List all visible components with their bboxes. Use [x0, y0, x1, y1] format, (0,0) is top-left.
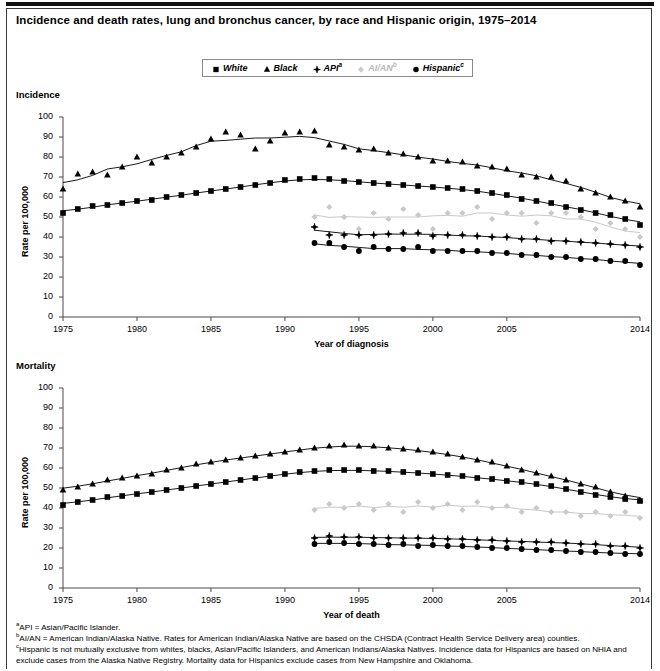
legend-item-label: Hispanicc — [423, 63, 464, 73]
plot-area — [0, 376, 660, 626]
panel-label-mortality: Mortality — [16, 360, 56, 371]
legend-item-black: Black — [262, 63, 298, 73]
legend-item-label: AI/ANb — [368, 63, 396, 73]
legend-item-hispanic: Hispanicc — [411, 63, 464, 73]
panel-label-incidence: Incidence — [16, 89, 60, 100]
square-marker-icon — [211, 64, 220, 73]
page-title: Incidence and death rates, lung and bron… — [16, 14, 636, 26]
footnote-text: Hispanic is not mutually exclusive from … — [16, 645, 627, 665]
legend-item-white: White — [211, 63, 248, 73]
top-rule — [6, 2, 654, 6]
chart-incidence: 0102030405060708090100197519801985199019… — [0, 105, 660, 355]
diamond-marker-icon — [356, 64, 365, 73]
footnote-line: cHispanic is not mutually exclusive from… — [16, 644, 646, 666]
y-axis-title: Rate per 100,000 — [20, 457, 30, 528]
footnote-text: API = Asian/Pacific Islander. — [19, 623, 120, 632]
triangle-marker-icon — [262, 64, 271, 73]
legend-item-api: APIa — [312, 63, 343, 73]
legend-footnote-marker: c — [460, 61, 464, 68]
circle-marker-icon — [411, 64, 420, 73]
plus-diamond-marker-icon — [312, 64, 321, 73]
legend-item-label: APIa — [324, 63, 343, 73]
footnote-text: AI/AN = American Indian/Alaska Native. R… — [19, 634, 579, 643]
legend-item-aian: AI/ANb — [356, 63, 396, 73]
x-axis-title: Year of diagnosis — [63, 339, 640, 349]
legend-item-label: White — [223, 63, 248, 73]
chart-legend: WhiteBlackAPIaAI/ANbHispanicc — [202, 59, 473, 77]
footnote-line: aAPI = Asian/Pacific Islander. — [16, 622, 646, 633]
x-axis-title: Year of death — [63, 610, 640, 620]
y-axis-title: Rate per 100,000 — [20, 186, 30, 257]
plot-area — [0, 105, 660, 355]
legend-footnote-marker: a — [339, 61, 343, 68]
figure-root: Incidence and death rates, lung and bron… — [0, 0, 660, 671]
footnote-line: bAI/AN = American Indian/Alaska Native. … — [16, 633, 646, 644]
chart-mortality: 0102030405060708090100197519801985199019… — [0, 376, 660, 626]
footnotes: aAPI = Asian/Pacific Islander.bAI/AN = A… — [16, 622, 646, 666]
legend-item-label: Black — [274, 63, 298, 73]
legend-footnote-marker: b — [393, 61, 397, 68]
